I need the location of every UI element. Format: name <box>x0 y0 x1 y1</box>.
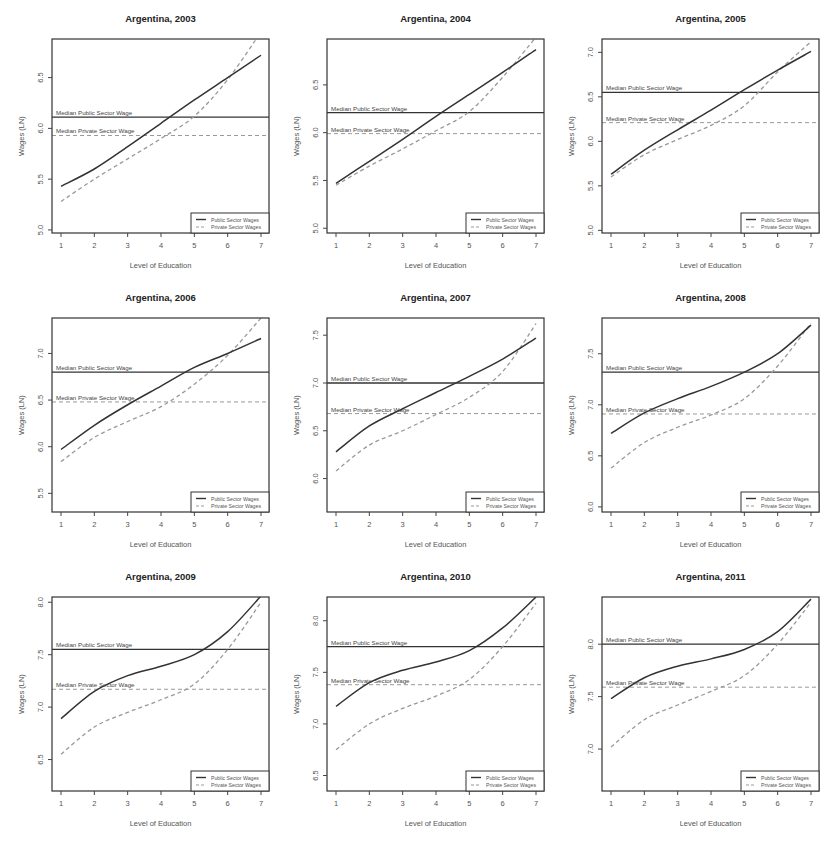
x-tick-label: 3 <box>401 799 405 808</box>
chart-title: Argentina, 2010 <box>400 571 471 582</box>
public-wages-line <box>336 338 536 452</box>
y-axis-label: Wages (LN) <box>567 395 576 435</box>
x-tick-label: 2 <box>367 799 371 808</box>
private-wages-line <box>336 324 536 471</box>
chart-title: Argentina, 2006 <box>125 292 196 303</box>
legend-private-label: Private Sector Wages <box>486 224 536 230</box>
chart-panel: Argentina, 2011Median Public Sector Wage… <box>550 558 825 838</box>
plot-area <box>327 324 544 471</box>
x-tick-label: 3 <box>676 799 680 808</box>
x-tick-label: 4 <box>709 520 713 529</box>
chart-panel: Argentina, 2007Median Public Sector Wage… <box>275 279 550 559</box>
chart-panel: Argentina, 2008Median Public Sector Wage… <box>550 279 825 559</box>
x-tick-label: 4 <box>434 799 438 808</box>
median-public-label: Median Public Sector Wage <box>606 636 683 643</box>
plot-frame <box>327 39 544 233</box>
legend-public-label: Public Sector Wages <box>211 775 259 781</box>
x-tick-label: 6 <box>501 799 505 808</box>
plot-frame <box>52 318 269 512</box>
median-private-label: Median Private Sector Wage <box>56 394 135 401</box>
plot-frame <box>602 39 819 233</box>
x-tick-label: 4 <box>709 241 713 250</box>
x-axis-label: Level of Education <box>130 819 192 828</box>
y-tick-label: 6.5 <box>586 451 595 461</box>
plot-area <box>52 32 269 202</box>
x-tick-label: 7 <box>534 799 538 808</box>
legend-public-label: Public Sector Wages <box>761 775 809 781</box>
x-tick-label: 4 <box>709 799 713 808</box>
y-tick-label: 6.5 <box>36 72 45 82</box>
legend: Public Sector WagesPrivate Sector Wages <box>191 771 269 791</box>
private-wages-line <box>611 42 811 177</box>
y-axis-label: Wages (LN) <box>567 674 576 714</box>
x-tick-label: 2 <box>367 241 371 250</box>
x-tick-label: 6 <box>501 241 505 250</box>
chart-title: Argentina, 2008 <box>675 292 746 303</box>
legend-public-label: Public Sector Wages <box>486 496 534 502</box>
x-tick-label: 3 <box>401 241 405 250</box>
median-private-label: Median Private Sector Wage <box>56 127 135 134</box>
y-tick-label: 7.0 <box>36 348 45 358</box>
y-tick-label: 6.0 <box>36 123 45 133</box>
legend-public-label: Public Sector Wages <box>486 217 534 223</box>
public-wages-line <box>611 51 811 174</box>
x-tick-label: 7 <box>809 799 813 808</box>
public-wages-line <box>336 597 536 706</box>
x-axis-label: Level of Education <box>680 261 742 270</box>
x-tick-label: 3 <box>126 799 130 808</box>
x-tick-label: 4 <box>159 520 163 529</box>
chart-title: Argentina, 2009 <box>125 571 196 582</box>
y-tick-label: 7.0 <box>586 744 595 754</box>
y-tick-label: 7.0 <box>586 400 595 410</box>
x-tick-label: 3 <box>676 241 680 250</box>
x-tick-label: 1 <box>609 520 613 529</box>
x-tick-label: 5 <box>742 241 746 250</box>
legend: Public Sector WagesPrivate Sector Wages <box>741 492 819 512</box>
chart-title: Argentina, 2007 <box>400 292 471 303</box>
legend-private-label: Private Sector Wages <box>211 503 261 509</box>
x-tick-label: 6 <box>226 241 230 250</box>
x-tick-label: 6 <box>776 799 780 808</box>
y-axis-label: Wages (LN) <box>292 395 301 435</box>
x-tick-label: 1 <box>609 799 613 808</box>
legend-public-label: Public Sector Wages <box>486 775 534 781</box>
legend-private-label: Private Sector Wages <box>761 224 811 230</box>
chart-title: Argentina, 2005 <box>675 13 746 24</box>
median-public-label: Median Public Sector Wage <box>331 375 408 382</box>
x-tick-label: 6 <box>776 241 780 250</box>
y-tick-label: 7.0 <box>311 378 320 388</box>
x-tick-label: 1 <box>334 241 338 250</box>
x-tick-label: 7 <box>534 520 538 529</box>
plot-area <box>602 599 819 747</box>
y-tick-label: 8.0 <box>36 597 45 607</box>
y-tick-label: 5.0 <box>36 225 45 235</box>
legend: Public Sector WagesPrivate Sector Wages <box>741 771 819 791</box>
x-tick-label: 2 <box>92 520 96 529</box>
y-axis-label: Wages (LN) <box>17 395 26 435</box>
plot-frame <box>602 597 819 791</box>
legend-private-label: Private Sector Wages <box>211 224 261 230</box>
median-public-label: Median Public Sector Wage <box>56 364 133 371</box>
y-tick-label: 7.5 <box>311 667 320 677</box>
y-tick-label: 7.5 <box>586 349 595 359</box>
private-wages-line <box>61 602 261 754</box>
median-private-label: Median Private Sector Wage <box>331 406 410 413</box>
plot-area <box>327 597 544 750</box>
plot-frame <box>52 39 269 233</box>
x-axis-label: Level of Education <box>405 540 467 549</box>
y-tick-label: 8.0 <box>586 639 595 649</box>
y-tick-label: 5.5 <box>36 488 45 498</box>
y-tick-label: 7.5 <box>36 649 45 659</box>
x-tick-label: 1 <box>609 241 613 250</box>
legend-private-label: Private Sector Wages <box>211 782 261 788</box>
median-public-label: Median Public Sector Wage <box>331 105 408 112</box>
x-tick-label: 1 <box>334 799 338 808</box>
x-tick-label: 2 <box>642 241 646 250</box>
x-tick-label: 1 <box>59 520 63 529</box>
chart-panel: Argentina, 2003Median Public Sector Wage… <box>0 0 275 280</box>
y-tick-label: 7.0 <box>586 47 595 57</box>
x-tick-label: 4 <box>434 241 438 250</box>
y-tick-label: 7.0 <box>36 702 45 712</box>
y-tick-label: 5.0 <box>586 225 595 235</box>
y-tick-label: 7.5 <box>311 330 320 340</box>
